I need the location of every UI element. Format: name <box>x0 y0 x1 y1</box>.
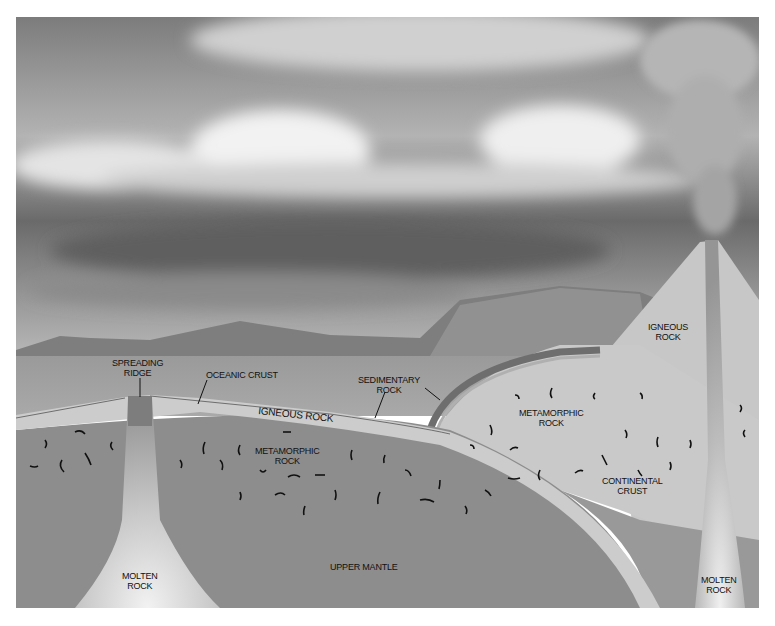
label-spreading-ridge: SPREADING RIDGE <box>112 358 163 378</box>
label-sedimentary-rock: SEDIMENTARY ROCK <box>358 375 420 395</box>
rock-cycle-illustration <box>0 0 775 626</box>
label-molten-rock-left: MOLTEN ROCK <box>122 571 158 591</box>
label-igneous-rock-volcano: IGNEOUS ROCK <box>648 322 688 342</box>
label-oceanic-crust: OCEANIC CRUST <box>206 370 278 380</box>
label-metamorphic-rock-oceanic: METAMORPHIC ROCK <box>255 446 320 466</box>
label-molten-rock-right: MOLTEN ROCK <box>701 575 737 595</box>
label-upper-mantle: UPPER MANTLE <box>330 562 398 572</box>
label-continental-crust: CONTINENTAL CRUST <box>602 476 663 496</box>
label-metamorphic-rock-continental: METAMORPHIC ROCK <box>519 408 584 428</box>
